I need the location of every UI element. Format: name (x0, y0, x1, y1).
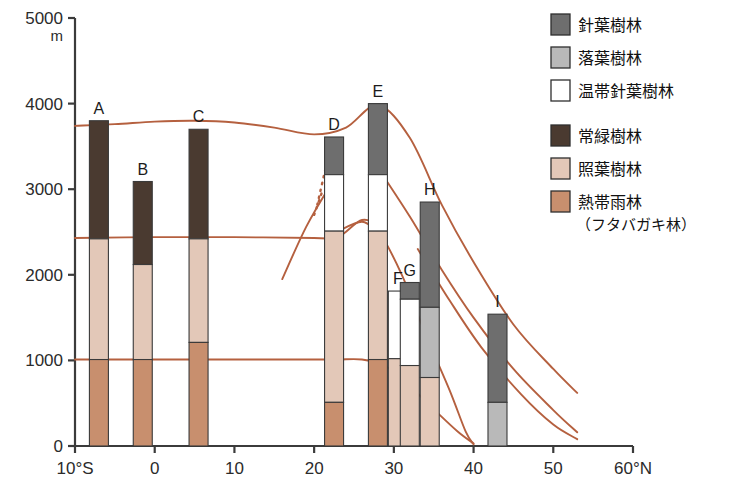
bar-segment-conifer (488, 314, 507, 402)
bar-segment-laurel (325, 231, 344, 402)
bar-segment-conifer (325, 137, 344, 175)
y-tick-label: 0 (54, 437, 63, 456)
bar-segment-conifer (420, 202, 439, 307)
x-tick-label: 10°S (56, 459, 93, 478)
bar-B[interactable]: B (133, 161, 152, 447)
figure-root: ABCDEFGHI 500040003000200010000m10°S0102… (0, 0, 736, 479)
legend-label-conifer: 針葉樹林 (578, 16, 642, 35)
legend-item-laurel[interactable]: 照葉樹林 (551, 158, 642, 179)
vegetation-altitude-chart: ABCDEFGHI 500040003000200010000m10°S0102… (0, 0, 736, 479)
legend-swatch-evergreen (551, 125, 570, 146)
bar-C[interactable]: C (189, 108, 208, 446)
bar-segment-conifer (368, 104, 387, 175)
legend-label-temperate-conifer: 温帯針葉樹林 (578, 82, 674, 101)
bar-segment-deciduous (488, 402, 507, 446)
legend-label-evergreen: 常緑樹林 (578, 127, 642, 146)
x-tick-label: 30 (384, 459, 403, 478)
legend-item-conifer[interactable]: 針葉樹林 (551, 14, 642, 35)
bar-D[interactable]: D (325, 116, 344, 446)
x-tick-label: 0 (150, 459, 159, 478)
bar-segment-temperate-conifer (400, 299, 419, 365)
bar-segment-tropical-rain (189, 342, 208, 446)
bar-segment-tropical-rain (133, 360, 152, 446)
legend-sublabel-tropical-rain: （フタバガキ林） (576, 216, 696, 234)
bar-segment-laurel (420, 378, 439, 446)
bar-label-H: H (424, 181, 436, 198)
bar-label-E: E (373, 83, 384, 100)
bar-segment-deciduous (420, 307, 439, 377)
bar-label-G: G (404, 262, 416, 279)
bar-segment-tropical-rain (89, 360, 108, 446)
legend-label-tropical-rain: 熱帯雨林 (578, 193, 642, 212)
legend-item-temperate-conifer[interactable]: 温帯針葉樹林 (551, 80, 674, 101)
legend-swatch-deciduous (551, 47, 570, 68)
bar-label-C: C (193, 108, 205, 125)
x-tick-label: 60°N (614, 459, 652, 478)
x-tick-label: 50 (544, 459, 563, 478)
legend-item-deciduous[interactable]: 落葉樹林 (551, 47, 642, 68)
x-tick-label: 40 (464, 459, 483, 478)
bar-A[interactable]: A (89, 100, 108, 446)
legend-swatch-conifer (551, 14, 570, 35)
y-tick-label: 5000 (25, 9, 63, 28)
bar-segment-evergreen (133, 182, 152, 265)
bar-segment-laurel (133, 265, 152, 360)
bar-segment-evergreen (89, 121, 108, 239)
y-tick-label: 2000 (25, 266, 63, 285)
bar-segment-temperate-conifer (368, 175, 387, 232)
x-tick-label: 10 (225, 459, 244, 478)
bar-label-I: I (495, 293, 499, 310)
x-tick-label: 20 (305, 459, 324, 478)
bar-segment-tropical-rain (368, 360, 387, 446)
bar-segment-temperate-conifer (325, 175, 344, 232)
bar-segment-laurel (189, 239, 208, 343)
bar-I[interactable]: I (488, 293, 507, 446)
bar-segment-laurel (400, 366, 419, 446)
legend-item-evergreen[interactable]: 常緑樹林 (551, 125, 642, 146)
bar-E[interactable]: E (368, 83, 387, 446)
bar-segment-conifer (400, 283, 419, 300)
bar-segment-laurel (89, 239, 108, 360)
y-tick-label: 4000 (25, 95, 63, 114)
legend-label-laurel: 照葉樹林 (578, 160, 642, 179)
bar-segment-laurel (368, 231, 387, 359)
y-tick-label: 3000 (25, 180, 63, 199)
bar-segment-tropical-rain (325, 402, 344, 446)
bar-label-B: B (137, 161, 148, 178)
bar-H[interactable]: H (420, 181, 439, 446)
legend-swatch-tropical-rain (551, 191, 570, 212)
bar-label-D: D (328, 116, 340, 133)
bar-segment-evergreen (189, 129, 208, 239)
y-axis-unit-label: m (51, 27, 64, 44)
bar-G[interactable]: G (400, 262, 419, 447)
legend-swatch-laurel (551, 158, 570, 179)
y-tick-label: 1000 (25, 351, 63, 370)
bar-label-A: A (94, 100, 105, 117)
legend-swatch-temperate-conifer (551, 80, 570, 101)
legend-label-deciduous: 落葉樹林 (578, 49, 642, 68)
